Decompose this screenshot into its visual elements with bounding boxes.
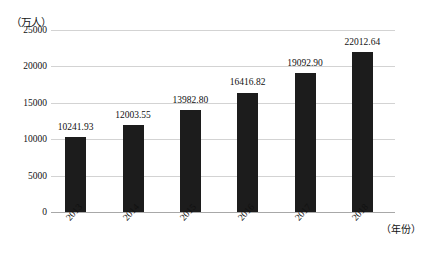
x-axis-tick-labels: 201320142015201620172018 bbox=[51, 212, 395, 259]
bar-value-label: 19092.90 bbox=[287, 58, 323, 68]
gridline bbox=[51, 139, 395, 140]
y-axis-tick-label: 15000 bbox=[3, 98, 47, 108]
y-axis-tick-label: 25000 bbox=[3, 25, 47, 35]
plot-area: 10241.9312003.5513982.8016416.8219092.90… bbox=[51, 30, 395, 212]
x-axis-unit-label: （年份） bbox=[381, 221, 421, 236]
bar-value-label: 10241.93 bbox=[58, 122, 94, 132]
bar bbox=[123, 125, 144, 212]
bar bbox=[65, 137, 86, 212]
gridline bbox=[51, 176, 395, 177]
bar-value-label: 16416.82 bbox=[230, 77, 266, 87]
y-axis-tick-label: 20000 bbox=[3, 61, 47, 71]
bar-value-label: 12003.55 bbox=[115, 110, 151, 120]
bar-value-label: 22012.64 bbox=[345, 37, 381, 47]
bar-chart: （万人） 0500010000150002000025000 10241.931… bbox=[0, 0, 422, 259]
y-axis-tick-labels: 0500010000150002000025000 bbox=[0, 30, 47, 212]
gridline bbox=[51, 66, 395, 67]
bar bbox=[237, 93, 258, 213]
y-axis-tick-label: 10000 bbox=[3, 134, 47, 144]
gridline bbox=[51, 30, 395, 31]
y-axis-tick-label: 0 bbox=[3, 207, 47, 217]
bar bbox=[352, 52, 373, 212]
bar bbox=[180, 110, 201, 212]
y-axis-tick-label: 5000 bbox=[3, 171, 47, 181]
gridline bbox=[51, 103, 395, 104]
bar bbox=[295, 73, 316, 212]
bar-value-label: 13982.80 bbox=[173, 95, 209, 105]
